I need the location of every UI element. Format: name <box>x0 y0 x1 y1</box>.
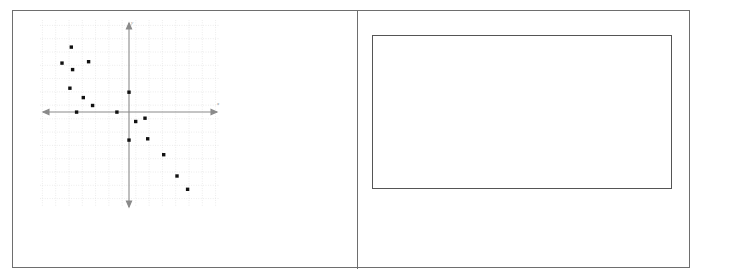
coordinate-plane: x y <box>31 17 226 213</box>
y-axis <box>126 23 131 207</box>
data-point <box>60 61 63 64</box>
data-point <box>146 137 149 140</box>
data-point <box>143 117 146 120</box>
data-point <box>91 104 94 107</box>
data-point <box>87 60 90 63</box>
screenshot-root: x y <box>0 0 729 277</box>
data-point <box>162 153 165 156</box>
data-point <box>134 120 137 123</box>
data-point <box>127 91 130 94</box>
data-points <box>60 45 189 191</box>
data-point <box>82 96 85 99</box>
data-point <box>68 87 71 90</box>
y-axis-label: y <box>131 20 133 25</box>
outer-frame: x y <box>12 10 690 268</box>
data-point <box>115 110 118 113</box>
data-point <box>70 45 73 48</box>
scatter-plot-svg <box>31 17 226 213</box>
data-point <box>127 138 130 141</box>
x-axis-label: x <box>217 101 219 106</box>
blank-answer-panel <box>358 11 691 269</box>
data-point <box>186 188 189 191</box>
data-point <box>71 68 74 71</box>
scatter-plot-panel: x y <box>13 11 357 269</box>
data-point <box>75 110 78 113</box>
data-point <box>175 174 178 177</box>
answer-box[interactable] <box>372 35 672 189</box>
